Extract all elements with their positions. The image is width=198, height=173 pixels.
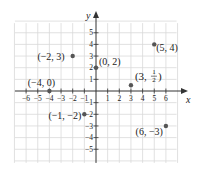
point-label: (−1, −2) [48,110,81,122]
x-tick-label: −3 [57,94,65,103]
point-label: (−4, 0) [28,77,55,89]
x-tick-label: 6 [164,94,168,103]
data-point [129,83,133,87]
point-label: (5, 4) [156,42,178,54]
y-tick-label: −5 [85,145,93,154]
data-point [71,54,75,58]
x-tick-label: 1 [106,94,110,103]
x-tick-label: 2 [117,94,121,103]
y-tick-label: 3 [89,52,93,61]
x-axis-label: x [185,94,191,105]
y-axis-arrow-icon [93,11,99,18]
x-tick-label: 5 [152,94,156,103]
x-tick-label: −4 [45,94,53,103]
svg-text:1: 1 [152,68,156,76]
data-point [47,89,51,93]
x-tick-label: −6 [22,94,30,103]
point-label: (0, 2) [99,56,121,68]
y-tick-label: 4 [89,40,93,49]
y-tick-label: 2 [89,63,93,72]
coordinate-plane: xy −6−5−4−3−2−1123456−5−4−3−2−112345 (−2… [0,0,198,173]
svg-text:): ) [158,70,162,83]
y-tick-label: 1 [89,75,93,84]
y-tick-label: −1 [85,98,93,107]
plotted-points: (−2, 3)(0, 2)(5, 4)(−4, 0)(3, 12)(−1, −2… [28,42,178,138]
x-tick-label: −5 [34,94,42,103]
y-tick-label: 5 [89,28,93,37]
svg-text:2: 2 [152,76,156,84]
x-tick-label: 4 [141,94,145,103]
y-axis-label: y [85,10,91,21]
data-point [94,66,98,70]
data-point [82,112,86,116]
x-tick-label: −2 [69,94,77,103]
data-point [164,124,168,128]
y-tick-label: −4 [85,133,93,142]
svg-text:(3,: (3, [135,70,147,83]
point-label: (6, −3) [136,126,163,138]
point-label: (−2, 3) [37,51,64,63]
point-label: (3, 12) [135,68,162,84]
x-tick-label: 3 [129,94,133,103]
y-tick-label: −3 [85,122,93,131]
